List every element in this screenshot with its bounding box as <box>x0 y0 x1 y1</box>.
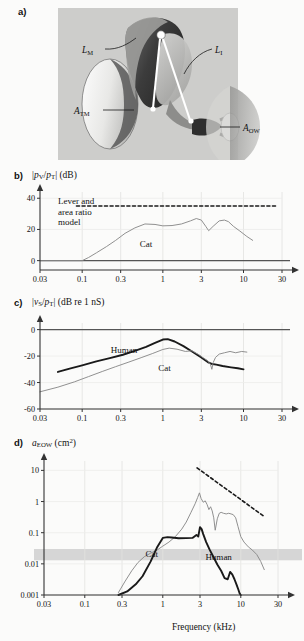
panel-d-xaxis-label: Frequency (kHz) <box>172 622 235 632</box>
x-tick-label: 10 <box>239 414 247 423</box>
y-tick-label: 20 <box>27 225 35 234</box>
x-tick-label: 3 <box>198 600 202 609</box>
pivot-point <box>157 31 165 39</box>
y-tick-label: 0.001 <box>21 591 39 600</box>
x-tick-label: 30 <box>278 414 286 423</box>
model-label-line-3: model <box>58 217 94 228</box>
malleus-arm-end <box>150 106 155 111</box>
series-human <box>58 339 244 372</box>
y-tick-label: 10 <box>31 466 39 475</box>
panel-a-diagram: LM LI ATM AOW <box>24 8 280 160</box>
x-tick-label: 30 <box>274 600 282 609</box>
x-tick-label: 1 <box>161 275 165 284</box>
panel-c-plot: 0.030.10.31310300-20-40-60HumanCat <box>0 309 304 429</box>
y-tick-label: -20 <box>24 352 35 361</box>
panel-d-axis-title: aEOW (cm2) <box>32 437 76 448</box>
panel-b-plot: 0.030.10.313103002040Cat <box>0 182 304 294</box>
y-tick-label: 0.1 <box>29 529 39 538</box>
x-tick-label: 0.3 <box>116 275 126 284</box>
ossicle-diagram-svg: LM LI ATM AOW <box>24 8 280 160</box>
panel-b-model-label: Lever and area ratio model <box>58 196 94 228</box>
figure-root: a) <box>0 0 304 641</box>
x-tick-label: 0.3 <box>117 600 127 609</box>
y-tick-label: -60 <box>24 405 35 414</box>
x-axis-arrow <box>292 406 299 412</box>
panel-c-letter: c) <box>14 297 22 308</box>
panel-b-axis-title: |pV/pT| (dB) <box>32 170 77 180</box>
x-tick-label: 0.1 <box>80 600 90 609</box>
panel-b-letter: b) <box>14 170 23 181</box>
curve-label-human: Human <box>111 345 138 355</box>
incus-arm-end <box>188 118 193 123</box>
y-tick-label: -40 <box>24 379 35 388</box>
x-tick-label: 0.3 <box>116 414 126 423</box>
panel-c-axis-title: |vS/pT| (dB re 1 nS) <box>32 297 104 307</box>
curve-label-human: Human <box>205 552 232 562</box>
x-tick-label: 0.1 <box>77 275 87 284</box>
curve-label-cat: Cat <box>140 239 153 249</box>
y-tick-label: 0 <box>31 326 35 335</box>
model-label-line-2: area ratio <box>58 207 94 218</box>
panel-c-svg: 0.030.10.31310300-20-40-60HumanCat <box>0 309 304 429</box>
x-tick-label: 3 <box>199 414 203 423</box>
panel-d-svg: 0.030.10.31310300.0010.010.1110CatHuman <box>0 449 304 619</box>
panel-b-svg: 0.030.10.313103002040Cat <box>0 182 304 294</box>
panel-d-plot: 0.030.10.31310300.0010.010.1110CatHuman <box>0 449 304 619</box>
shaded-band <box>34 549 302 560</box>
y-axis-arrow <box>37 184 43 191</box>
y-tick-label: 0 <box>31 257 35 266</box>
y-axis-arrow <box>41 453 47 460</box>
panel-d-letter: d) <box>14 437 23 448</box>
x-tick-label: 1 <box>161 600 165 609</box>
x-tick-label: 10 <box>239 275 247 284</box>
x-tick-label: 3 <box>199 275 203 284</box>
x-tick-label: 1 <box>161 414 165 423</box>
y-axis-arrow <box>37 315 43 322</box>
x-tick-label: 0.1 <box>77 414 87 423</box>
y-tick-label: 1 <box>35 498 39 507</box>
x-axis-arrow <box>292 267 299 273</box>
series-cat <box>40 348 247 392</box>
model-label-line-1: Lever and <box>58 196 94 207</box>
x-tick-label: 30 <box>278 275 286 284</box>
x-tick-label: 0.03 <box>37 600 51 609</box>
curve-label-cat: Cat <box>158 363 171 373</box>
y-tick-label: 40 <box>27 194 35 203</box>
curve-label-cat: Cat <box>145 549 158 559</box>
x-tick-label: 10 <box>237 600 245 609</box>
x-tick-label: 0.03 <box>33 275 47 284</box>
x-axis-arrow <box>288 592 295 598</box>
y-tick-label: 0.01 <box>25 560 39 569</box>
x-tick-label: 0.03 <box>33 414 47 423</box>
series-reference-slope <box>197 468 264 517</box>
